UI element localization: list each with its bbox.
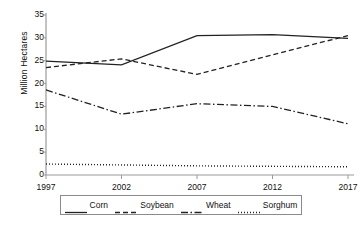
legend-label: Sorghum	[263, 200, 298, 210]
legend-entry-wheat[interactable]: Wheat	[181, 200, 231, 210]
line-chart: Million Hectares 35302520151050 19972002…	[0, 0, 361, 227]
series-line-wheat	[46, 90, 348, 124]
legend-label: Corn	[90, 200, 108, 210]
legend-swatch-wheat-icon	[181, 202, 203, 209]
legend-entry-soybean[interactable]: Soybean	[115, 200, 174, 210]
series-line-soybean	[46, 36, 348, 75]
chart-legend: CornSoybeanWheatSorghum	[60, 195, 302, 215]
legend-swatch-corn-icon	[65, 202, 87, 209]
legend-label: Wheat	[206, 200, 231, 210]
series-line-sorghum	[46, 164, 348, 167]
legend-entry-corn[interactable]: Corn	[65, 200, 108, 210]
plot-area	[0, 0, 361, 227]
series-line-corn	[46, 35, 348, 65]
legend-swatch-sorghum-icon	[238, 202, 260, 209]
legend-label: Soybean	[140, 200, 174, 210]
legend-swatch-soybean-icon	[115, 202, 137, 209]
legend-entry-sorghum[interactable]: Sorghum	[238, 200, 298, 210]
